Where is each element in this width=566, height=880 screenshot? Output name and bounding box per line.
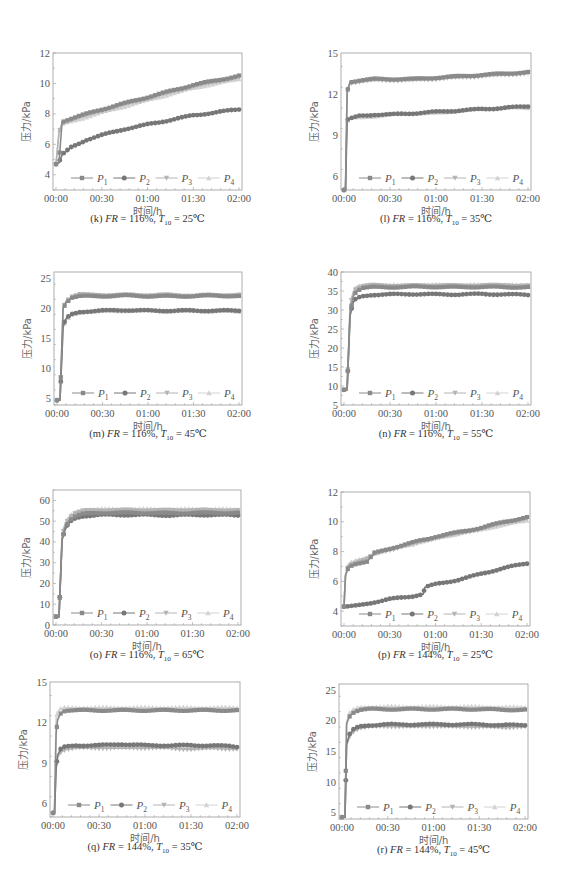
square-marker-icon <box>74 708 78 712</box>
square-marker-icon <box>472 528 476 532</box>
square-marker-icon <box>65 118 69 122</box>
square-marker-icon <box>229 294 233 298</box>
y-tick-label: 25 <box>326 685 337 696</box>
caption-t-value: = 45℃ <box>457 844 490 855</box>
circle-marker-icon <box>410 176 415 181</box>
x-tick-label: 01:00 <box>424 629 448 640</box>
square-marker-icon <box>226 294 230 298</box>
square-marker-icon <box>210 79 214 83</box>
square-marker-icon <box>426 285 430 289</box>
square-marker-icon <box>485 707 489 711</box>
y-axis-label: 压力/kPa <box>21 318 33 359</box>
square-marker-icon <box>426 537 430 541</box>
square-marker-icon <box>96 109 100 113</box>
y-tick-label: 6 <box>333 171 338 182</box>
square-marker-icon <box>84 511 88 515</box>
x-tick-label: 00:00 <box>44 628 68 639</box>
square-marker-icon <box>526 285 530 289</box>
square-marker-icon <box>470 708 474 712</box>
square-marker-icon <box>500 708 504 712</box>
square-marker-icon <box>447 707 451 711</box>
square-marker-icon <box>55 725 59 729</box>
x-tick-label: 00:30 <box>378 193 402 204</box>
square-marker-icon <box>522 285 526 289</box>
square-marker-icon <box>389 708 393 712</box>
square-marker-icon <box>69 117 73 121</box>
square-marker-icon <box>353 79 357 83</box>
square-marker-icon <box>415 76 419 80</box>
square-marker-icon <box>88 110 92 114</box>
square-marker-icon <box>369 555 373 559</box>
square-marker-icon <box>126 510 130 514</box>
y-tick-label: 10 <box>328 516 339 527</box>
square-marker-icon <box>507 285 511 289</box>
square-marker-icon <box>218 78 222 82</box>
square-marker-icon <box>484 285 488 289</box>
square-marker-icon <box>374 707 378 711</box>
circle-marker-icon <box>523 723 528 728</box>
square-marker-icon <box>480 73 484 77</box>
x-tick-label: 00:00 <box>332 193 356 204</box>
circle-marker-icon <box>410 391 415 396</box>
square-marker-icon <box>204 708 208 712</box>
square-marker-icon <box>73 115 77 119</box>
square-marker-icon <box>149 511 153 515</box>
square-marker-icon <box>59 711 63 715</box>
square-marker-icon <box>434 76 438 80</box>
square-marker-icon <box>112 294 116 298</box>
square-marker-icon <box>363 707 367 711</box>
x-tick-label: 01:00 <box>136 408 160 419</box>
square-marker-icon <box>82 708 86 712</box>
square-marker-icon <box>468 74 472 78</box>
square-marker-icon <box>69 517 73 521</box>
square-marker-icon <box>523 707 527 711</box>
x-tick-label: 01:00 <box>422 822 446 833</box>
caption-fr-value: = 116%, <box>406 428 447 439</box>
x-tick-label: 01:30 <box>181 193 205 204</box>
square-marker-icon <box>187 84 191 88</box>
y-tick-label: 15 <box>326 746 337 757</box>
y-axis-label: 压力/kPa <box>308 539 320 580</box>
chart-panel-p: 4681012压力/kPa00:0000:3001:0001:3002:00时间… <box>283 440 566 660</box>
chart-caption: (r) FR = 144%, T10 = 45℃ <box>299 843 566 858</box>
square-marker-icon <box>392 286 396 290</box>
square-marker-icon <box>153 294 157 298</box>
square-marker-icon <box>212 708 216 712</box>
square-marker-icon <box>411 76 415 80</box>
caption-fr-value: = 144%, <box>406 649 447 660</box>
square-marker-icon <box>190 511 194 515</box>
square-marker-icon <box>450 707 454 711</box>
square-marker-icon <box>142 294 146 298</box>
square-marker-icon <box>130 510 134 514</box>
square-marker-icon <box>176 87 180 91</box>
square-marker-icon <box>59 375 63 379</box>
square-marker-icon <box>85 294 89 298</box>
chart-panel-n: 510152025303540压力/kPa00:0000:3001:0001:3… <box>283 220 566 440</box>
y-tick-label: 5 <box>46 393 51 404</box>
square-marker-icon <box>442 75 446 79</box>
square-marker-icon <box>518 71 522 75</box>
square-marker-icon <box>484 72 488 76</box>
square-marker-icon <box>494 521 498 525</box>
square-marker-icon <box>361 78 365 82</box>
square-marker-icon <box>92 109 96 113</box>
square-marker-icon <box>399 77 403 81</box>
square-marker-icon <box>200 708 204 712</box>
square-marker-icon <box>229 76 233 80</box>
square-marker-icon <box>346 369 350 373</box>
square-marker-icon <box>162 708 166 712</box>
square-marker-icon <box>158 708 162 712</box>
square-marker-icon <box>367 707 371 711</box>
square-marker-icon <box>77 114 81 118</box>
circle-marker-icon <box>526 104 531 109</box>
square-marker-icon <box>502 520 506 524</box>
y-axis: 510152025 <box>41 273 56 405</box>
square-marker-icon <box>78 294 82 298</box>
square-marker-icon <box>504 708 508 712</box>
square-marker-icon <box>157 92 161 96</box>
square-marker-icon <box>439 707 443 711</box>
square-marker-icon <box>214 294 218 298</box>
square-marker-icon <box>213 511 217 515</box>
x-tick-label: 00:30 <box>87 820 111 831</box>
chart-panel-o: 0102030405060压力/kPa00:0000:3001:0001:300… <box>0 440 283 660</box>
